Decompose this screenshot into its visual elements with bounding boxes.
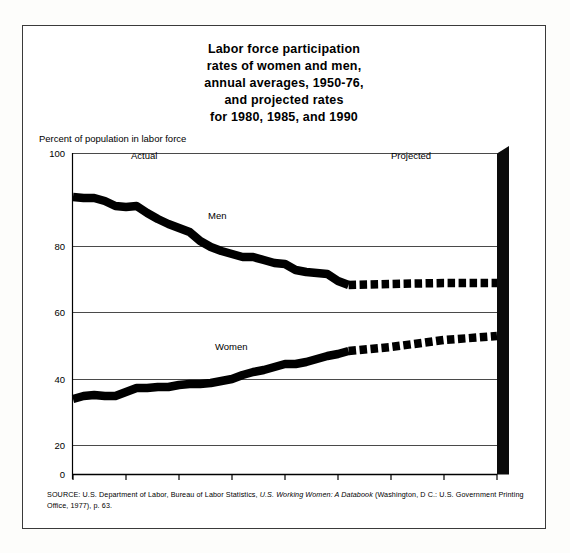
x-tick-label-1970: 1970 xyxy=(274,483,295,486)
x-tick-label-1965: 1965 xyxy=(221,483,242,486)
y-tick-label-0: 0 xyxy=(60,469,65,480)
chart-title-line-1: Labor force participation xyxy=(23,41,545,58)
figure-container: Labor force participation rates of women… xyxy=(0,0,570,553)
chart-frame: Labor force participation rates of women… xyxy=(22,25,546,529)
chart-title: Labor force participation rates of women… xyxy=(23,41,545,126)
x-tick-label-1955: 1955 xyxy=(115,483,136,486)
chart-svg: 100 80 60 40 20 0 xyxy=(39,146,529,486)
y-tick-label-40: 40 xyxy=(54,374,65,385)
series-label-men: Men xyxy=(208,210,226,221)
chart-title-line-2: rates of women and men, xyxy=(23,58,545,75)
series-women-actual xyxy=(73,351,349,399)
y-tick-label-100: 100 xyxy=(49,148,65,159)
x-tick-label-1990: 1990 xyxy=(486,483,507,486)
region-label-actual: Actual xyxy=(131,150,157,161)
plot-area: 100 80 60 40 20 0 xyxy=(39,146,529,486)
y-tick-label-20: 20 xyxy=(54,440,65,451)
source-note: SOURCE: U.S. Department of Labor, Bureau… xyxy=(47,490,525,511)
y-tick-label-60: 60 xyxy=(54,307,65,318)
series-men-projected xyxy=(349,283,497,285)
x-tick-label-1980: 1980 xyxy=(380,483,401,486)
series-women-projected xyxy=(349,336,497,351)
x-tick-label-1960: 1960 xyxy=(168,483,189,486)
region-label-projected: Projected xyxy=(391,150,431,161)
series-label-women: Women xyxy=(215,341,248,352)
x-tick-label-1975: 1975 xyxy=(327,483,348,486)
chart-title-line-5: for 1980, 1985, and 1990 xyxy=(23,109,545,126)
x-tick-labels: 1950 1955 1960 1965 1970 1975 1980 1985 … xyxy=(62,483,507,486)
x-tick-label-1950: 1950 xyxy=(62,483,83,486)
chart-title-line-3: annual averages, 1950-76, xyxy=(23,75,545,92)
y-tick-labels: 100 80 60 40 20 0 xyxy=(49,148,65,480)
right-edge-slab xyxy=(497,146,509,475)
gridlines xyxy=(72,154,497,446)
chart-title-line-4: and projected rates xyxy=(23,92,545,109)
x-tick-label-1985: 1985 xyxy=(433,483,454,486)
y-tick-label-80: 80 xyxy=(54,241,65,252)
source-prefix: SOURCE: U.S. Department of Labor, Bureau… xyxy=(47,490,260,499)
source-title: U.S. Working Women: A Databook xyxy=(260,490,373,499)
y-axis-title: Percent of population in labor force xyxy=(39,133,186,144)
